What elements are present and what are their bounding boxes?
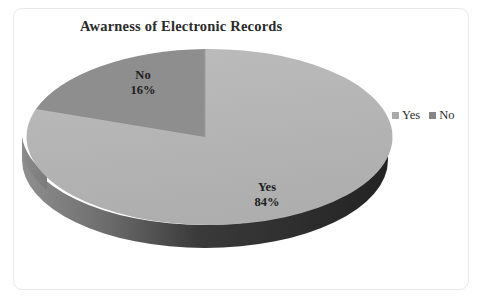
legend-label-yes: Yes [402,108,420,123]
chart-page: Awarness of Electronic Records [0,0,483,301]
pie-label-yes-percent: 84% [237,195,297,210]
legend-swatch-yes-icon [392,112,399,119]
pie-label-no: No 16% [113,68,173,98]
pie-label-no-percent: 16% [113,83,173,98]
pie-label-yes: Yes 84% [237,180,297,210]
chart-legend: Yes No [392,108,454,123]
pie-label-yes-name: Yes [237,180,297,195]
pie-chart-graphic [0,0,483,301]
legend-item-yes[interactable]: Yes [392,108,420,123]
legend-label-no: No [439,108,454,123]
legend-item-no[interactable]: No [429,108,454,123]
pie-label-no-name: No [113,68,173,83]
legend-swatch-no-icon [429,112,436,119]
